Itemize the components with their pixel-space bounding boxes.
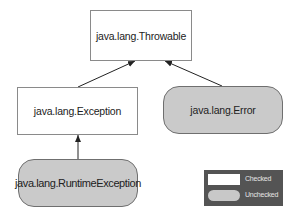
- legend-swatch-checked: [208, 174, 240, 185]
- node-label: java.lang.Throwable: [96, 30, 186, 42]
- legend-swatch-unchecked: [208, 190, 240, 201]
- legend-label-checked: Checked: [245, 175, 271, 182]
- legend: Checked Unchecked: [204, 170, 283, 206]
- node-error: java.lang.Error: [163, 86, 283, 134]
- legend-label-unchecked: Unchecked: [245, 191, 278, 198]
- edge-exception-to-throwable: [78, 61, 135, 87]
- node-label: java.lang.RuntimeException: [15, 177, 141, 189]
- node-exception: java.lang.Exception: [17, 87, 138, 135]
- node-runtime-exception: java.lang.RuntimeException: [18, 159, 138, 207]
- node-label: java.lang.Error: [190, 104, 255, 116]
- edge-error-to-throwable: [165, 61, 222, 86]
- node-throwable: java.lang.Throwable: [90, 10, 192, 61]
- node-label: java.lang.Exception: [34, 105, 121, 117]
